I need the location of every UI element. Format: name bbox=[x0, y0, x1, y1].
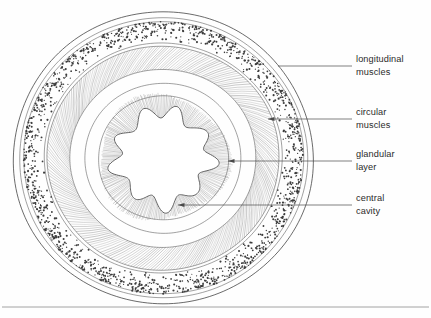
label-circular-muscles-line2: muscles bbox=[356, 120, 391, 130]
label-glandular-layer-line1: glandular bbox=[356, 149, 395, 159]
label-glandular-layer-line2: layer bbox=[356, 162, 376, 172]
label-central-cavity-line2: cavity bbox=[356, 206, 380, 216]
label-longitudinal-muscles-line2: muscles bbox=[356, 67, 391, 77]
label-longitudinal-muscles-line1: longitudinal bbox=[356, 54, 404, 64]
figure-root: longitudinalmusclescircularmusclesglandu… bbox=[0, 0, 431, 318]
label-circular-muscles-line1: circular bbox=[356, 107, 386, 117]
label-central-cavity-line1: central bbox=[356, 193, 384, 203]
cross-section-diagram: longitudinalmusclescircularmusclesglandu… bbox=[0, 0, 431, 318]
